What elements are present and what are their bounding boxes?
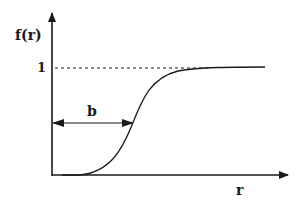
level-label: 1 (37, 60, 46, 75)
x-axis-label: r (236, 182, 244, 198)
sigmoid-curve (62, 67, 265, 175)
width-label: b (87, 103, 97, 119)
y-axis-label: f(r) (15, 27, 42, 43)
diagram: f(r) 1 b r (0, 0, 303, 201)
sigmoid-diagram: f(r) 1 b r (0, 0, 303, 201)
